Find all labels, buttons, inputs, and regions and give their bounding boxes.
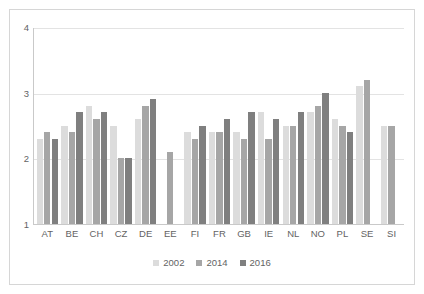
bar-slot (290, 28, 296, 224)
bar-slot (118, 28, 124, 224)
bar-SI-2014 (388, 126, 394, 225)
x-axis-tick-label: FI (183, 229, 208, 239)
bar-CZ-2016 (125, 158, 131, 224)
bar-slot (283, 28, 289, 224)
bar-slot (199, 28, 205, 224)
bar-NO-2002 (307, 112, 313, 224)
x-axis-tick-label: DE (133, 229, 158, 239)
bar-SE-2014 (364, 80, 370, 224)
bar-slot (184, 28, 190, 224)
bar-slot (209, 28, 215, 224)
bar-group: AT (35, 28, 60, 224)
bar-slot (61, 28, 67, 224)
legend-swatch-icon (240, 260, 246, 266)
x-axis-tick-label: NL (281, 229, 306, 239)
bar-slot (347, 28, 353, 224)
bar-AT-2014 (44, 132, 50, 224)
bar-slot (322, 28, 328, 224)
bar-slot (142, 28, 148, 224)
bar-BE-2002 (61, 126, 67, 225)
bar-slot (381, 28, 387, 224)
bar-group: SI (379, 28, 404, 224)
bar-slot (265, 28, 271, 224)
bar-slot (93, 28, 99, 224)
bar-group: NL (281, 28, 306, 224)
bar-slot (356, 28, 362, 224)
bar-group: FR (207, 28, 232, 224)
bar-FI-2014 (192, 139, 198, 224)
bar-group: NO (306, 28, 331, 224)
y-axis-tick-label: 3 (24, 89, 29, 99)
bar-slot (52, 28, 58, 224)
x-axis-tick-label: CH (84, 229, 109, 239)
bar-slot (101, 28, 107, 224)
bar-IE-2014 (265, 139, 271, 224)
bar-DE-2002 (135, 119, 141, 224)
legend-label: 2002 (163, 258, 184, 268)
bar-slot (135, 28, 141, 224)
bar-group: DE (133, 28, 158, 224)
bar-FR-2002 (209, 132, 215, 224)
bar-slot (224, 28, 230, 224)
bar-NO-2016 (322, 93, 328, 224)
x-axis-tick-label: FR (207, 229, 232, 239)
bar-group: SE (355, 28, 380, 224)
bar-slot (364, 28, 370, 224)
bar-NL-2016 (298, 112, 304, 224)
x-axis-tick-label: PL (330, 229, 355, 239)
bar-slot (86, 28, 92, 224)
x-axis-tick-label: BE (60, 229, 85, 239)
bar-group: BE (60, 28, 85, 224)
bar-slot (76, 28, 82, 224)
bar-groups: ATBECHCZDEEEFIFRGBIENLNOPLSESI (35, 28, 404, 224)
bar-GB-2016 (248, 112, 254, 224)
y-axis-tick-label: 1 (24, 220, 29, 230)
bar-NL-2014 (290, 126, 296, 225)
bar-slot (175, 28, 181, 224)
bar-slot (125, 28, 131, 224)
bar-slot (332, 28, 338, 224)
y-axis-tick-label: 2 (24, 155, 29, 165)
bar-slot (298, 28, 304, 224)
legend-item-2002[interactable]: 2002 (153, 258, 184, 268)
x-axis-tick-label: SE (355, 229, 380, 239)
bar-slot (150, 28, 156, 224)
bar-slot (110, 28, 116, 224)
bar-group: GB (232, 28, 257, 224)
bar-PL-2014 (339, 126, 345, 225)
legend-label: 2016 (250, 258, 271, 268)
bar-SI-2002 (381, 126, 387, 225)
bar-CZ-2014 (118, 158, 124, 224)
bar-slot (248, 28, 254, 224)
bar-group: CZ (109, 28, 134, 224)
bar-slot (396, 28, 402, 224)
bar-group: PL (330, 28, 355, 224)
legend-item-2014[interactable]: 2014 (196, 258, 227, 268)
bar-slot (69, 28, 75, 224)
x-axis-tick-label: SI (379, 229, 404, 239)
bar-slot (160, 28, 166, 224)
bar-slot (388, 28, 394, 224)
bar-slot (241, 28, 247, 224)
bar-NO-2014 (315, 106, 321, 224)
bar-slot (258, 28, 264, 224)
x-axis-tick-label: IE (256, 229, 281, 239)
bar-slot (307, 28, 313, 224)
bar-IE-2016 (273, 119, 279, 224)
bar-slot (315, 28, 321, 224)
legend-item-2016[interactable]: 2016 (240, 258, 271, 268)
bar-GB-2014 (241, 139, 247, 224)
bar-group: EE (158, 28, 183, 224)
x-axis-tick-label: AT (35, 229, 60, 239)
bar-NL-2002 (283, 126, 289, 225)
bar-group: IE (256, 28, 281, 224)
bar-CH-2002 (86, 106, 92, 224)
bar-CH-2016 (101, 112, 107, 224)
bar-PL-2016 (347, 132, 353, 224)
bar-CH-2014 (93, 119, 99, 224)
bar-PL-2002 (332, 119, 338, 224)
bar-FI-2016 (199, 126, 205, 225)
bar-FR-2016 (224, 119, 230, 224)
bar-slot (273, 28, 279, 224)
plot-area: 4321 ATBECHCZDEEEFIFRGBIENLNOPLSESI (33, 28, 404, 225)
